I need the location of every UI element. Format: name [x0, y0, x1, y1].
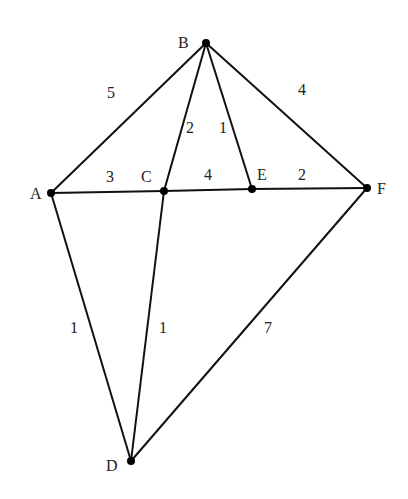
edge-weight-BC: 2 [186, 119, 194, 136]
node-label-E: E [257, 166, 267, 183]
edge-BF [206, 43, 367, 188]
edge-weight-AC: 3 [106, 168, 114, 185]
edge-BC [164, 43, 206, 191]
edge-weight-BE: 1 [219, 119, 227, 136]
node-label-F: F [377, 180, 386, 197]
edge-weight-BF: 4 [298, 81, 306, 98]
edge-weight-AD: 1 [70, 319, 78, 336]
edge-weight-CE: 4 [204, 166, 212, 183]
node-label-A: A [30, 185, 42, 202]
weighted-graph: 5214342117 ABCDEF [0, 0, 408, 499]
node-B [202, 39, 210, 47]
node-label-C: C [141, 168, 152, 185]
edge-AB [51, 43, 206, 193]
edge-weight-AB: 5 [107, 84, 115, 101]
node-F [363, 184, 371, 192]
node-labels-layer: ABCDEF [30, 34, 386, 474]
node-D [127, 457, 135, 465]
node-label-D: D [106, 457, 118, 474]
edge-weight-FD: 7 [264, 319, 272, 336]
edges-layer [51, 43, 367, 461]
edge-weights-layer: 5214342117 [70, 81, 306, 336]
edge-AC [51, 191, 164, 193]
node-label-B: B [178, 34, 189, 51]
edge-weight-CD: 1 [159, 319, 167, 336]
node-A [47, 189, 55, 197]
edge-CE [164, 189, 252, 191]
edge-weight-EF: 2 [298, 166, 306, 183]
node-E [248, 185, 256, 193]
edge-EF [252, 188, 367, 189]
nodes-layer [47, 39, 371, 465]
node-C [160, 187, 168, 195]
edge-AD [51, 193, 131, 461]
